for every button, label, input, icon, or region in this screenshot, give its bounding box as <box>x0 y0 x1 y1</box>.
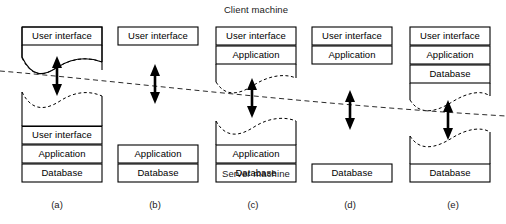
column-a-server-side-edges <box>22 92 102 126</box>
column-c-server-db-label: Database <box>216 167 296 178</box>
column-e-client-app-label: Application <box>410 49 490 60</box>
column-e-client-ui-label: User interface <box>410 30 490 41</box>
column-c-server-app-label: Application <box>216 148 296 159</box>
column-b-server-app-label: Application <box>118 148 198 159</box>
column-c-client-side-edges <box>216 64 296 82</box>
column-a-server-ui-label: User interface <box>22 129 102 140</box>
column-c-client-ui-label: User interface <box>216 30 296 41</box>
column-c-client-app-label: Application <box>216 49 296 60</box>
column-a-client-ui-label: User interface <box>22 30 102 41</box>
column-label-d: (d) <box>330 199 370 210</box>
arrow-b <box>150 64 160 104</box>
diagram-root: Client machine Server machine User inter… <box>0 0 506 224</box>
column-label-e: (e) <box>433 199 473 210</box>
column-c-server-torn-edge <box>216 118 296 134</box>
column-d-server-db-label: Database <box>312 167 392 178</box>
column-e-client-side-edges <box>410 83 490 100</box>
column-a-server-db-label: Database <box>22 167 102 178</box>
column-a-server-torn-edge <box>22 92 102 108</box>
column-c-client-torn-edge <box>216 76 296 93</box>
column-b-client-ui-label: User interface <box>118 30 198 41</box>
column-label-b: (b) <box>135 199 175 210</box>
column-b-server-db-label: Database <box>118 167 198 178</box>
column-label-c: (c) <box>233 199 273 210</box>
column-a-server-app-label: Application <box>22 148 102 159</box>
column-d-client-app-label: Application <box>312 49 392 60</box>
column-e-server-side-edges <box>410 132 490 164</box>
column-label-a: (a) <box>37 199 77 210</box>
column-a-server-ui-top-rule <box>22 126 102 127</box>
column-e-client-db-label: Database <box>410 68 490 79</box>
client-machine-title: Client machine <box>206 4 306 15</box>
arrow-d <box>345 90 355 130</box>
column-e-server-db-label: Database <box>410 167 490 178</box>
column-d-client-ui-label: User interface <box>312 30 392 41</box>
